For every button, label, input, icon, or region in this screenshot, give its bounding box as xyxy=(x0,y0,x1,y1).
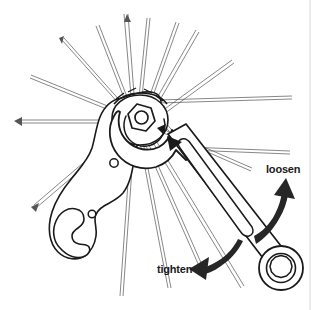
rivet-upper xyxy=(110,159,118,167)
tighten-arrow xyxy=(189,239,243,280)
loosen-arrow xyxy=(254,178,295,244)
tighten-label: tighten xyxy=(157,264,192,275)
combination-wrench-box-end xyxy=(259,246,303,290)
hub-adjustment-illustration: loosen tighten xyxy=(0,0,319,310)
rivet-lower xyxy=(88,210,96,218)
loosen-label: loosen xyxy=(266,164,300,175)
combination-wrench-slot xyxy=(178,139,253,236)
